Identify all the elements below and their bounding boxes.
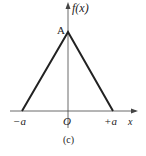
triangle-pulse-curve [22,32,113,111]
triangle-function-diagram: f(x) A −a O +a x (c) [0,0,146,156]
x-axis-label: x [127,116,133,127]
peak-label: A [57,24,65,36]
right-tick-label: +a [104,115,117,127]
y-axis-label: f(x) [72,1,89,15]
figure-caption: (c) [63,134,74,146]
origin-label: O [63,115,71,127]
left-tick-label: −a [13,115,26,127]
x-axis-arrow-icon [131,109,138,114]
y-axis-arrow-icon [66,2,71,9]
